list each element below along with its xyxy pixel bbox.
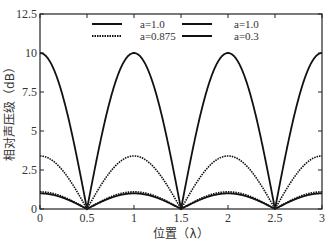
chart: 00.511.522.53 02.557.51012.5 a=1.0a=0.87… bbox=[0, 0, 334, 245]
x-tick-label: 2 bbox=[225, 211, 231, 225]
legend: a=1.0a=0.875a=1.0a=0.3 bbox=[92, 18, 259, 42]
plot-curves bbox=[40, 53, 322, 209]
legend-label: a=0.3 bbox=[234, 30, 259, 42]
y-tick-label: 5 bbox=[31, 124, 37, 138]
y-tick-label: 12.5 bbox=[16, 7, 37, 21]
legend-label: a=1.0 bbox=[234, 18, 259, 30]
x-tick-label: 3 bbox=[319, 211, 325, 225]
x-tick-label: 1 bbox=[131, 211, 137, 225]
series-line bbox=[40, 53, 322, 209]
y-tick-label: 2.5 bbox=[22, 163, 37, 177]
x-tick-label: 0 bbox=[37, 211, 43, 225]
y-tick-label: 7.5 bbox=[22, 85, 37, 99]
x-tick-label: 2.5 bbox=[268, 211, 283, 225]
y-tick-label: 0 bbox=[31, 202, 37, 216]
legend-label: a=1.0 bbox=[140, 18, 165, 30]
plot-frame bbox=[40, 14, 322, 209]
y-tick-label: 10 bbox=[25, 46, 37, 60]
x-tick-label: 0.5 bbox=[80, 211, 95, 225]
y-axis-title: 相对声压级（dB） bbox=[3, 61, 17, 161]
x-tick-label: 1.5 bbox=[174, 211, 189, 225]
legend-label: a=0.875 bbox=[140, 30, 176, 42]
x-axis: 00.511.522.53 bbox=[37, 14, 325, 225]
x-axis-title: 位置（λ） bbox=[153, 226, 208, 241]
